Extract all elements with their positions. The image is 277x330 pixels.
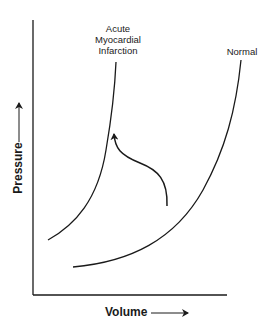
ami-label-line-1: Acute	[87, 23, 149, 34]
y-axis-label: Pressure	[11, 142, 25, 193]
ami-label-line-2: Myocardial	[87, 34, 149, 45]
shift-arrow-icon	[114, 134, 167, 206]
normal-curve-label: Normal	[222, 46, 262, 57]
ami-curve-label: Acute Myocardial Infarction	[87, 23, 149, 56]
ami-label-line-3: Infarction	[87, 45, 149, 56]
x-axis-label: Volume	[105, 305, 147, 319]
normal-curve	[73, 60, 241, 267]
ami-curve	[48, 62, 116, 240]
